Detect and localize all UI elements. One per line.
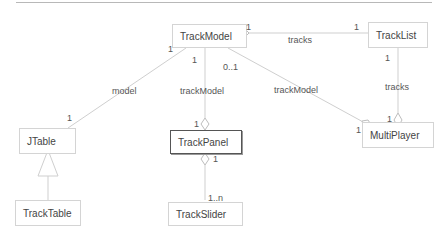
class-label: TrackSlider: [176, 209, 226, 220]
class-tracktable[interactable]: TrackTable: [15, 200, 81, 226]
multiplicity-label: 1: [354, 22, 359, 32]
multiplicity-label: 1: [168, 44, 173, 54]
class-multiplayer[interactable]: MultiPlayer: [362, 122, 434, 148]
multiplicity-label: 1: [194, 119, 199, 129]
role-label: trackModel: [274, 85, 318, 95]
multiplicity-label: 0..1: [223, 62, 238, 72]
role-label: model: [112, 86, 137, 96]
multiplicity-label: 1: [385, 53, 390, 63]
multiplicity-label: 1: [246, 22, 251, 32]
aggregation-diamond-icon: [201, 153, 209, 165]
multiplicity-label: 1: [387, 114, 392, 124]
multiplicity-label: 1: [67, 113, 72, 123]
class-trackslider[interactable]: TrackSlider: [168, 202, 243, 226]
class-label: MultiPlayer: [370, 130, 419, 141]
role-label: trackModel: [180, 86, 224, 96]
class-jtable[interactable]: JTable: [19, 128, 76, 154]
class-label: TrackTable: [23, 208, 72, 219]
class-label: TrackList: [376, 30, 416, 41]
multiplicity-label: 1: [192, 55, 197, 65]
multiplicity-label: 1: [213, 154, 218, 164]
role-label: tracks: [385, 82, 409, 92]
class-trackpanel[interactable]: TrackPanel: [170, 130, 242, 154]
multiplicity-label: 1..n: [208, 193, 223, 203]
class-label: TrackPanel: [178, 137, 228, 148]
aggregation-diamond-icon: [201, 118, 209, 130]
role-label: tracks: [288, 35, 312, 45]
class-tracklist[interactable]: TrackList: [368, 22, 428, 48]
multiplicity-label: 1: [356, 125, 361, 135]
class-trackmodel[interactable]: TrackModel: [172, 24, 247, 48]
class-label: JTable: [27, 136, 56, 147]
class-label: TrackModel: [180, 31, 232, 42]
